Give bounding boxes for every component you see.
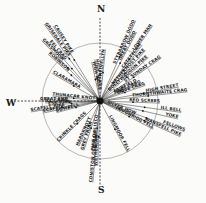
fell-label: CLARAMARA [52, 69, 82, 89]
west-label: W [5, 98, 17, 108]
compass-diagram: CAUSEY PIKEGRISEDALE PIKEEEL CRAGGRASMOO… [0, 0, 206, 203]
summit-dot [70, 74, 72, 76]
summit-dot [68, 107, 70, 109]
summit-dot [68, 58, 70, 60]
summit-dot [69, 101, 71, 103]
summit-dot [73, 59, 75, 61]
center-hub [97, 98, 104, 105]
fell-label: RED SCREES [129, 97, 160, 103]
fell-direction-diagram: CAUSEY PIKEGRISEDALE PIKEEEL CRAGGRASMOO… [0, 0, 206, 203]
north-label: N [97, 4, 105, 14]
summit-dot [142, 110, 144, 112]
fell-label: YOKE [164, 111, 179, 119]
south-label: S [98, 185, 105, 195]
summit-dot [71, 103, 73, 105]
summit-dot [146, 117, 148, 119]
fell-label: LINGMOOR FELL [108, 114, 132, 152]
summit-dot [144, 106, 146, 108]
fell-label: ILL BELL [160, 105, 182, 113]
fell-label: ILL CRAG [45, 97, 68, 103]
fell-label: HELVELLYN [98, 48, 106, 76]
summit-dot [119, 62, 121, 64]
